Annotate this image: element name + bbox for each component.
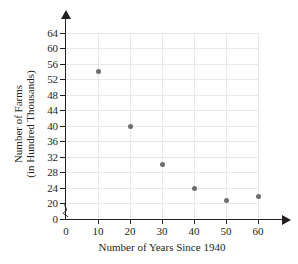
y-axis-break-icon — [60, 203, 72, 217]
scatter-plot-figure: 0202428323640444852566064 0102030405060 … — [0, 0, 298, 264]
gridline-vertical — [194, 33, 195, 220]
y-axis-tick-label: 0 — [24, 214, 58, 225]
x-axis-line — [60, 219, 283, 220]
gridline-vertical — [98, 33, 99, 220]
data-point — [192, 186, 197, 191]
y-axis-line — [65, 18, 66, 220]
x-axis-title: Number of Years Since 1940 — [38, 241, 286, 253]
plot-area — [66, 33, 258, 220]
data-point — [128, 124, 133, 129]
x-axis-tick-label: 20 — [116, 226, 144, 237]
x-axis-tick-label: 0 — [52, 226, 80, 237]
x-axis-tick-label: 10 — [84, 226, 112, 237]
data-point — [256, 194, 261, 199]
y-axis-title-line1: Number of Farms — [12, 44, 24, 204]
y-axis-tick-label: 64 — [24, 28, 58, 39]
data-point — [96, 69, 101, 74]
x-axis-tick-label: 30 — [148, 226, 176, 237]
y-axis-title-line2: (in Hundred Thousands) — [24, 44, 36, 204]
y-axis-title: Number of Farms (in Hundred Thousands) — [12, 44, 36, 204]
data-point — [224, 198, 229, 203]
gridline-vertical — [226, 33, 227, 220]
y-axis-arrow-icon — [61, 10, 71, 19]
x-axis-arrow-icon — [282, 215, 291, 225]
x-axis-tick-label: 50 — [212, 226, 240, 237]
x-axis-tick-label: 40 — [180, 226, 208, 237]
gridline-vertical — [162, 33, 163, 220]
data-point — [160, 162, 165, 167]
gridline-vertical — [258, 33, 259, 220]
x-axis-tick-label: 60 — [244, 226, 272, 237]
